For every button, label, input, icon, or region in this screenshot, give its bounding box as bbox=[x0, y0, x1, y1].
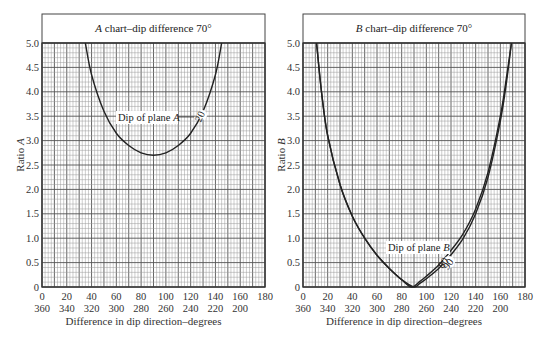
y-tick-label: 5.0 bbox=[26, 38, 39, 49]
x-tick-label-secondary: 240 bbox=[443, 303, 459, 314]
x-tick-label: 120 bbox=[183, 291, 199, 302]
x-tick-label: 40 bbox=[347, 291, 358, 302]
chart-title: A chart–dip difference 70° bbox=[94, 22, 211, 34]
y-tick-label: 3.0 bbox=[287, 135, 300, 146]
x-tick-label: 120 bbox=[443, 291, 459, 302]
y-tick-label: 2.5 bbox=[26, 160, 39, 171]
x-tick-label: 20 bbox=[62, 291, 73, 302]
y-tick-label: 0 bbox=[295, 282, 300, 293]
figure: A chart–dip difference 70°00.51.01.52.02… bbox=[0, 0, 546, 343]
y-tick-label: 0.5 bbox=[287, 257, 300, 268]
x-tick-label: 80 bbox=[136, 291, 147, 302]
y-tick-label: 3.5 bbox=[26, 111, 39, 122]
x-tick-label-secondary: 340 bbox=[59, 303, 75, 314]
x-tick-label-secondary: 260 bbox=[418, 303, 434, 314]
x-tick-label: 180 bbox=[257, 291, 273, 302]
x-tick-label: 100 bbox=[418, 291, 434, 302]
y-tick-label: 0 bbox=[34, 282, 39, 293]
chart-panel-a: A chart–dip difference 70°00.51.01.52.02… bbox=[14, 14, 273, 327]
curve-annotation: Dip of plane B bbox=[388, 242, 450, 253]
y-tick-label: 1.5 bbox=[287, 208, 300, 219]
x-tick-label-secondary: 280 bbox=[394, 303, 410, 314]
y-tick-label: 1.0 bbox=[26, 233, 39, 244]
y-tick-label: 3.5 bbox=[287, 111, 300, 122]
x-tick-label: 40 bbox=[86, 291, 97, 302]
x-tick-label-secondary: 320 bbox=[84, 303, 100, 314]
x-tick-label-secondary: 300 bbox=[108, 303, 124, 314]
x-tick-label-secondary: 260 bbox=[158, 303, 174, 314]
chart-panel-b: B chart–dip difference 70°00.51.01.52.02… bbox=[275, 14, 533, 327]
x-tick-label-secondary: 200 bbox=[492, 303, 508, 314]
x-tick-label: 160 bbox=[232, 291, 248, 302]
y-tick-label: 0.5 bbox=[26, 257, 39, 268]
x-tick-label: 140 bbox=[208, 291, 224, 302]
y-tick-label: 1.0 bbox=[287, 233, 300, 244]
x-tick-label: 140 bbox=[468, 291, 484, 302]
x-tick-label: 60 bbox=[372, 291, 383, 302]
x-tick-label-secondary: 340 bbox=[320, 303, 336, 314]
x-tick-label: 20 bbox=[322, 291, 333, 302]
x-tick-label: 0 bbox=[39, 291, 44, 302]
y-axis-label: Ratio A bbox=[14, 138, 26, 172]
y-tick-label: 2.0 bbox=[287, 184, 300, 195]
y-axis-label: Ratio B bbox=[275, 138, 287, 172]
y-tick-label: 4.0 bbox=[287, 86, 300, 97]
y-tick-label: 4.5 bbox=[26, 62, 39, 73]
x-tick-label-secondary: 360 bbox=[295, 303, 311, 314]
x-tick-label: 60 bbox=[111, 291, 122, 302]
chart-title: B chart–dip difference 70° bbox=[356, 22, 472, 34]
y-tick-label: 3.0 bbox=[26, 135, 39, 146]
x-tick-label-secondary: 280 bbox=[133, 303, 149, 314]
y-tick-label: 5.0 bbox=[287, 38, 300, 49]
x-tick-label-secondary: 220 bbox=[208, 303, 224, 314]
x-tick-label: 100 bbox=[158, 291, 174, 302]
y-tick-label: 2.0 bbox=[26, 184, 39, 195]
x-axis-label: Difference in dip direction–degrees bbox=[326, 315, 482, 327]
x-tick-label-secondary: 320 bbox=[344, 303, 360, 314]
x-tick-label: 160 bbox=[492, 291, 508, 302]
x-tick-label-secondary: 240 bbox=[183, 303, 199, 314]
y-tick-label: 4.5 bbox=[287, 62, 300, 73]
curve-annotation: Dip of plane A bbox=[118, 112, 180, 123]
x-tick-label-secondary: 200 bbox=[232, 303, 248, 314]
x-tick-label-secondary: 300 bbox=[369, 303, 385, 314]
x-tick-label: 180 bbox=[517, 291, 533, 302]
x-tick-label-secondary: 220 bbox=[468, 303, 484, 314]
y-tick-label: 2.5 bbox=[287, 160, 300, 171]
x-tick-label: 80 bbox=[396, 291, 407, 302]
x-tick-label-secondary: 360 bbox=[34, 303, 50, 314]
x-tick-label: 0 bbox=[300, 291, 305, 302]
y-tick-label: 4.0 bbox=[26, 86, 39, 97]
y-tick-label: 1.5 bbox=[26, 208, 39, 219]
x-axis-label: Difference in dip direction–degrees bbox=[66, 315, 222, 327]
